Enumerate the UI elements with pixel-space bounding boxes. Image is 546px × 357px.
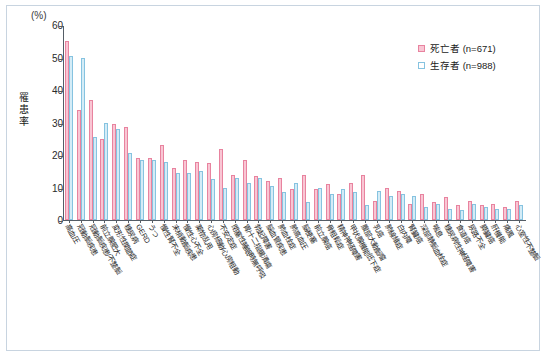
bar-alive bbox=[140, 160, 144, 220]
bar-group bbox=[347, 25, 359, 220]
bar-alive bbox=[199, 171, 203, 220]
bar-group bbox=[513, 25, 525, 220]
bar-alive bbox=[507, 209, 511, 220]
y-axis-title-char: 患 bbox=[17, 104, 31, 116]
bar-alive bbox=[306, 202, 310, 220]
bar-alive bbox=[330, 194, 334, 220]
bar-alive bbox=[401, 194, 405, 220]
y-axis-ticks: 0102030405060 bbox=[31, 26, 63, 221]
bar-group bbox=[288, 25, 300, 220]
bar-alive bbox=[128, 153, 132, 220]
bar-alive bbox=[318, 188, 322, 221]
x-axis-labels: 高血圧冠動脈疾患冠動脈疾患/不整脈前立腺肥大変形性関節症糖尿病GERDうつ慢性腎… bbox=[63, 223, 525, 343]
legend-swatch-dead bbox=[418, 45, 425, 52]
bar-group bbox=[134, 25, 146, 220]
bar-group bbox=[383, 25, 395, 220]
bar-alive bbox=[472, 204, 476, 220]
chart-figure: (%) 罹患率 0102030405060 高血圧冠動脈疾患冠動脈疾患/不整脈前… bbox=[0, 0, 546, 357]
y-axis-title: 罹患率 bbox=[17, 92, 31, 128]
bar-group bbox=[181, 25, 193, 220]
bar-alive bbox=[460, 210, 464, 220]
y-tick-mark bbox=[59, 221, 63, 222]
bar-alive bbox=[258, 178, 262, 220]
bar-group bbox=[75, 25, 87, 220]
bar-group bbox=[87, 25, 99, 220]
bar-group bbox=[335, 25, 347, 220]
bar-group bbox=[359, 25, 371, 220]
bar-group bbox=[229, 25, 241, 220]
bar-group bbox=[110, 25, 122, 220]
bar-group bbox=[241, 25, 253, 220]
bar-group bbox=[324, 25, 336, 220]
bar-alive bbox=[282, 192, 286, 220]
bar-alive bbox=[436, 204, 440, 220]
bar-alive bbox=[116, 129, 120, 220]
legend-label: 生存者 (n=988) bbox=[430, 58, 496, 72]
bar-alive bbox=[412, 196, 416, 220]
bar-group bbox=[276, 25, 288, 220]
bar-group bbox=[407, 25, 419, 220]
legend-entry: 死亡者 (n=671) bbox=[418, 41, 496, 55]
bar-alive bbox=[81, 58, 85, 220]
bar-alive bbox=[495, 209, 499, 220]
bar-alive bbox=[69, 56, 73, 220]
bar-alive bbox=[223, 188, 227, 221]
legend-swatch-alive bbox=[418, 62, 425, 69]
bar-alive bbox=[176, 173, 180, 220]
bar-alive bbox=[377, 191, 381, 220]
bar-alive bbox=[294, 183, 298, 220]
chart-legend: 死亡者 (n=671)生存者 (n=988) bbox=[418, 41, 496, 75]
legend-entry: 生存者 (n=988) bbox=[418, 58, 496, 72]
bar-group bbox=[501, 25, 513, 220]
bar-alive bbox=[365, 205, 369, 220]
bar-group bbox=[253, 25, 265, 220]
bar-group bbox=[170, 25, 182, 220]
bar-group bbox=[264, 25, 276, 220]
bar-alive bbox=[448, 209, 452, 220]
bar-group bbox=[312, 25, 324, 220]
bar-group bbox=[205, 25, 217, 220]
bar-alive bbox=[235, 178, 239, 220]
bar-alive bbox=[93, 137, 97, 220]
bar-group bbox=[122, 25, 134, 220]
bar-alive bbox=[484, 207, 488, 220]
bar-alive bbox=[341, 189, 345, 220]
bar-group bbox=[193, 25, 205, 220]
bar-alive bbox=[389, 196, 393, 220]
legend-label: 死亡者 (n=671) bbox=[430, 41, 496, 55]
bar-alive bbox=[424, 207, 428, 220]
bar-group bbox=[63, 25, 75, 220]
bar-group bbox=[300, 25, 312, 220]
bar-alive bbox=[247, 183, 251, 220]
bar-alive bbox=[519, 205, 523, 220]
bar-group bbox=[217, 25, 229, 220]
bar-group bbox=[146, 25, 158, 220]
bar-alive bbox=[152, 160, 156, 220]
bar-group bbox=[99, 25, 111, 220]
bar-group bbox=[158, 25, 170, 220]
bar-alive bbox=[353, 192, 357, 220]
bar-group bbox=[395, 25, 407, 220]
bar-alive bbox=[211, 179, 215, 220]
bar-group bbox=[371, 25, 383, 220]
bar-alive bbox=[104, 123, 108, 221]
y-axis-title-char: 罹 bbox=[17, 92, 31, 104]
bar-alive bbox=[187, 173, 191, 220]
bar-alive bbox=[270, 186, 274, 220]
y-axis-title-char: 率 bbox=[17, 116, 31, 128]
bar-alive bbox=[164, 162, 168, 221]
